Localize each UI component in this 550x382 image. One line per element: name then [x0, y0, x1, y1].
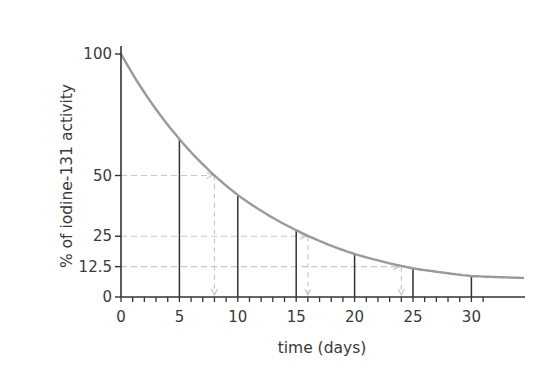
x-tick-label: 10: [228, 308, 247, 326]
x-tick-label: 30: [462, 308, 481, 326]
decay-chart: % of iodine-131 activity time (days) 012…: [0, 0, 550, 382]
half-life-guides: [121, 173, 404, 296]
y-axis-ticks: 012.52550100: [79, 45, 121, 306]
x-tick-label: 20: [345, 308, 364, 326]
y-tick-label: 50: [93, 167, 112, 185]
decay-curve: [121, 54, 524, 278]
x-tick-label: 0: [116, 308, 126, 326]
y-tick-label: 25: [93, 227, 112, 245]
x-axis-title: time (days): [278, 339, 367, 357]
x-tick-label: 25: [403, 308, 422, 326]
y-tick-label: 12.5: [79, 258, 112, 276]
y-tick-label: 0: [102, 288, 112, 306]
x-tick-label: 15: [287, 308, 306, 326]
x-axis-ticks: 051015202530: [116, 297, 483, 326]
y-axis-title-group: % of iodine-131 activity: [58, 84, 76, 268]
arrow-down-icon: [211, 289, 217, 295]
vertical-marker-lines: [179, 139, 471, 297]
arrow-down-icon: [398, 289, 404, 295]
y-tick-label: 100: [83, 45, 112, 63]
x-tick-label: 5: [175, 308, 185, 326]
y-axis-title: % of iodine-131 activity: [58, 84, 76, 268]
